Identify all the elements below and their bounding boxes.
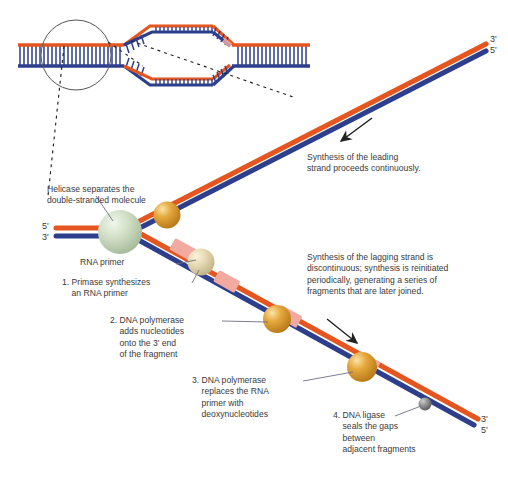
step3-annotation: 3. DNA polymerase replaces the RNA prime… — [192, 375, 269, 421]
inset-bubble-bottom-rungs — [156, 79, 212, 85]
dna-polymerase-leading-sphere — [154, 202, 181, 229]
lagging-strand-note: Synthesis of the lagging strand is disco… — [307, 252, 448, 298]
dna-ligase-sphere — [419, 398, 432, 411]
leader-step3 — [303, 372, 353, 381]
rna-primer-annotation: RNA primer — [80, 257, 124, 268]
step4-annotation: 4. DNA ligase seals the gaps between adj… — [333, 410, 416, 456]
figure-canvas: 5' 3' 3' 5' 3' 5' Helicase separates the… — [0, 0, 508, 492]
step2-annotation: 2. DNA polymerase adds nucleotides onto … — [110, 315, 184, 361]
top-right-lower-end-label: 5' — [490, 45, 497, 55]
dna-polymerase-lagging-sphere-1 — [263, 305, 291, 333]
inset-left-duplex-rungs — [20, 45, 120, 66]
inset-right-duplex-rungs — [238, 45, 306, 66]
bottom-right-upper-end-label: 3' — [481, 414, 488, 424]
top-right-upper-end-label: 3' — [490, 34, 497, 44]
inset-replication-bubble — [18, 20, 310, 196]
helicase-sphere — [98, 210, 142, 254]
helicase-annotation: Helicase separates the double-stranded m… — [47, 184, 146, 207]
leader-step2 — [222, 321, 268, 322]
step1-annotation: 1. Primase synthesizes an RNA primer — [62, 277, 150, 300]
inset-leader-right — [131, 41, 296, 98]
fork-left-bottom-end-label: 3' — [42, 232, 49, 242]
leading-strand-note: Synthesis of the leading strand proceeds… — [307, 152, 421, 175]
dna-polymerase-lagging-sphere-2 — [347, 352, 377, 382]
bottom-right-lower-end-label: 5' — [481, 425, 488, 435]
fork-left-top-end-label: 5' — [42, 221, 49, 231]
primase-sphere — [188, 249, 215, 276]
leading-orange-template — [122, 44, 486, 230]
inset-leader-left — [48, 46, 64, 196]
inset-bubble-top-rungs — [156, 27, 212, 33]
